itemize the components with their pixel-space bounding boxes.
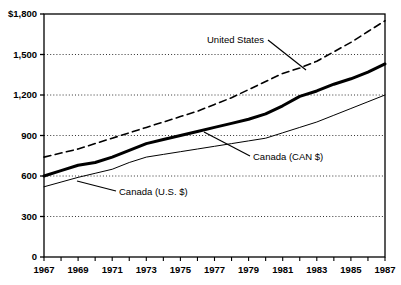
x-tick-label: 1983 [306, 264, 327, 275]
x-tick-label: 1979 [238, 264, 259, 275]
y-tick-label: 600 [21, 170, 37, 181]
y-tick-label: 1,200 [13, 89, 37, 100]
y-tick-label: $1,800 [8, 8, 37, 19]
x-tick-label: 1969 [68, 264, 89, 275]
plot-background [0, 0, 401, 285]
annotation-label: Canada (U.S. $) [119, 186, 188, 197]
y-tick-label: 300 [21, 211, 37, 222]
y-tick-label: 0 [32, 251, 37, 262]
x-tick-label: 1973 [136, 264, 157, 275]
y-tick-label: 1,500 [13, 49, 37, 60]
x-tick-label: 1987 [374, 264, 395, 275]
x-tick-label: 1981 [272, 264, 294, 275]
annotation-label: Canada (CAN $) [253, 151, 323, 162]
chart-container: 03006009001,2001,500$1,800 1967196919711… [0, 0, 401, 285]
x-tick-label: 1985 [340, 264, 362, 275]
y-tick-label: 900 [21, 130, 37, 141]
x-tick-label: 1967 [33, 264, 54, 275]
x-tick-label: 1977 [204, 264, 225, 275]
line-chart: 03006009001,2001,500$1,800 1967196919711… [0, 0, 401, 285]
x-tick-label: 1975 [170, 264, 192, 275]
annotation-label: United States [207, 34, 264, 45]
x-tick-label: 1971 [102, 264, 124, 275]
